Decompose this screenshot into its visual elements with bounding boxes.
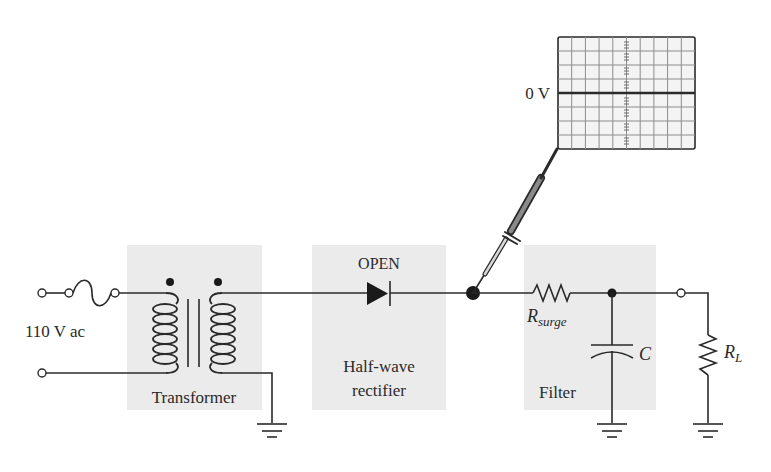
transformer-block	[127, 245, 262, 410]
fuse-terminal-left	[65, 289, 73, 297]
rectifier-label-line1: Half-wave	[343, 357, 415, 376]
oscilloscope-screen	[558, 37, 695, 149]
ground-icon	[257, 424, 287, 437]
input-terminal-bottom	[38, 369, 46, 377]
load-resistor-label: RL	[723, 342, 742, 365]
source-label: 110 V ac	[25, 322, 86, 341]
ground-icon	[693, 424, 723, 437]
circuit-diagram: 110 V ac Transformer	[0, 0, 771, 472]
scope-trace-label: 0 V	[525, 84, 550, 103]
transformer-label: Transformer	[152, 388, 237, 407]
ground-icon	[597, 424, 627, 437]
input-terminal-top	[38, 289, 46, 297]
diode-fault-label: OPEN	[358, 255, 400, 272]
output-terminal	[677, 289, 685, 297]
fuse-icon	[46, 280, 111, 306]
filter-label: Filter	[539, 383, 576, 402]
fuse-terminal-right	[111, 289, 119, 297]
capacitor-label: C	[639, 344, 652, 364]
rectifier-label-line2: rectifier	[352, 381, 406, 400]
load-resistor-icon	[685, 293, 716, 423]
